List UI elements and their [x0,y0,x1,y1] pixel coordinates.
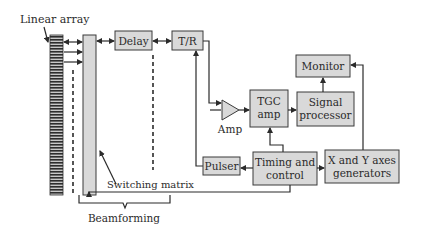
delay-label: Delay [118,35,148,47]
monitor-block: Monitor [296,55,350,77]
tgc-label-line2: amp [258,108,281,120]
beamforming-brace [79,195,170,208]
signal-processor-label-line1: Signal [309,96,343,108]
timing-label-line2: control [266,169,305,181]
pulser-block: Pulser [203,157,240,175]
beamforming-label: Beamforming [88,212,160,224]
monitor-label: Monitor [302,60,346,72]
linear-array-label: Linear array [20,13,90,26]
switching-matrix-bar [83,35,96,195]
delay-block: Delay [115,31,152,50]
tr-block: T/R [172,31,203,50]
xy-label-line1: X and Y axes [328,154,396,166]
signal-processor-label-line2: processor [299,109,352,121]
signal-processor-block: Signal processor [297,92,354,126]
xy-generators-block: X and Y axes generators [325,150,399,183]
block-diagram: Linear array Switching matrix Delay T/R … [0,0,423,239]
linear-array-pointer-arrow [44,27,48,42]
pulser-label: Pulser [205,160,240,172]
timing-control-block: Timing and control [253,152,317,185]
pulser-tr-line [196,51,203,166]
tgc-label-line1: TGC [257,95,280,107]
tr-amp-line [203,41,221,103]
timing-tgc-line [270,128,283,152]
amp-triangle-icon [222,100,239,120]
tgc-amp-block: TGC amp [250,90,288,127]
amp-label: Amp [217,123,243,135]
switching-matrix-label: Switching matrix [107,179,194,190]
tr-label: T/R [178,35,198,47]
timing-label-line1: Timing and [255,156,316,168]
xy-label-line2: generators [333,167,391,179]
linear-array-transducer [50,35,63,195]
